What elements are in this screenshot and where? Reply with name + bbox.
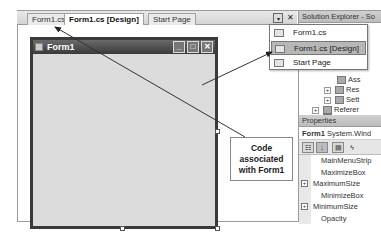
form-title-bar[interactable]: Form1 _ □ ✕	[33, 40, 215, 54]
alphabetical-icon[interactable]: ↓	[316, 142, 328, 153]
resize-handle-bottom[interactable]	[120, 226, 125, 231]
design-file-icon	[275, 45, 285, 53]
properties-toolbar: ☷ ↓ ▤ ϟ	[299, 140, 381, 155]
resize-handle-corner[interactable]	[215, 226, 220, 231]
resources-icon	[335, 86, 344, 94]
code-file-icon	[274, 29, 284, 37]
annotation-callout: Code associated with Form1	[230, 137, 293, 181]
property-gutter	[299, 213, 311, 225]
solution-explorer-title: Solution Explorer - So	[299, 11, 381, 23]
form1-design-window[interactable]: Form1 _ □ ✕	[30, 37, 218, 229]
properties-title: Properties	[299, 115, 381, 127]
property-row[interactable]: MinimizeBox	[299, 190, 381, 202]
expand-icon[interactable]: +	[324, 87, 331, 94]
property-row[interactable]: +MinimumSize	[299, 201, 381, 213]
resize-handle-right[interactable]	[215, 129, 220, 134]
tab-label: Start Page	[153, 15, 191, 24]
property-gutter	[299, 190, 311, 202]
active-files-menu: Form1.cs Form1.cs [Design] Start Page	[269, 24, 368, 70]
callout-line: Code	[231, 143, 292, 154]
document-tab-bar: Form1.cs Form1.cs [Design] Start Page ▾ …	[17, 11, 297, 25]
property-name: Opacity	[321, 214, 346, 223]
close-tab-icon[interactable]: ✕	[285, 13, 295, 23]
object-name: Form1	[302, 129, 325, 138]
property-gutter	[299, 167, 311, 179]
property-name: MinimumSize	[313, 202, 358, 211]
object-type: System.Wind	[327, 129, 371, 138]
property-row[interactable]: Opacity	[299, 213, 381, 225]
callout-line: associated	[231, 154, 292, 165]
menu-item-label: Start Page	[293, 58, 331, 67]
active-files-dropdown-icon[interactable]: ▾	[273, 13, 283, 23]
property-name: MaximizeBox	[321, 168, 366, 177]
tab-form1-design[interactable]: Form1.cs [Design]	[64, 13, 144, 25]
menu-item-form1-cs[interactable]: Form1.cs	[271, 26, 366, 40]
form-title: Form1	[47, 42, 75, 52]
property-name: MaximumSize	[313, 179, 360, 188]
properties-icon[interactable]: ▤	[332, 142, 344, 153]
events-icon[interactable]: ϟ	[346, 142, 358, 153]
tree-item-label: Ass	[348, 75, 361, 84]
form-icon	[35, 43, 43, 51]
property-name: MainMenuStrip	[321, 156, 371, 165]
tree-item[interactable]: +Sett	[324, 95, 359, 105]
tree-item[interactable]: Ass	[337, 75, 361, 85]
close-icon[interactable]: ✕	[201, 41, 213, 53]
menu-item-form1-design[interactable]: Form1.cs [Design]	[271, 41, 366, 55]
expand-icon[interactable]: +	[301, 180, 308, 187]
property-name: MinimizeBox	[321, 191, 364, 200]
maximize-icon[interactable]: □	[187, 41, 199, 53]
expand-icon[interactable]: +	[324, 97, 331, 104]
property-row[interactable]: +MaximumSize	[299, 178, 381, 190]
start-page-icon	[274, 59, 284, 67]
menu-item-label: Form1.cs [Design]	[294, 44, 359, 53]
categorized-icon[interactable]: ☷	[302, 142, 314, 153]
property-row[interactable]: MainMenuStrip	[299, 155, 381, 167]
file-icon	[337, 76, 346, 84]
properties-panel: Properties Form1 System.Wind ☷ ↓ ▤ ϟ Mai…	[298, 115, 381, 222]
tab-label: Form1.cs	[32, 15, 65, 24]
settings-icon	[335, 96, 344, 104]
tab-start-page[interactable]: Start Page	[148, 13, 196, 25]
property-row[interactable]: MaximizeBox	[299, 167, 381, 179]
tree-item[interactable]: +Res	[324, 85, 359, 95]
expand-icon[interactable]: +	[301, 203, 308, 210]
tab-label: Form1.cs [Design]	[69, 15, 139, 24]
menu-item-label: Form1.cs	[293, 28, 326, 37]
property-object-selector[interactable]: Form1 System.Wind	[299, 127, 381, 140]
tree-item-label: Res	[346, 85, 359, 94]
tree-item-label: Sett	[346, 95, 359, 104]
callout-line: with Form1	[231, 165, 292, 176]
minimize-icon[interactable]: _	[173, 41, 185, 53]
property-gutter	[299, 155, 311, 167]
menu-item-start-page[interactable]: Start Page	[271, 56, 366, 70]
